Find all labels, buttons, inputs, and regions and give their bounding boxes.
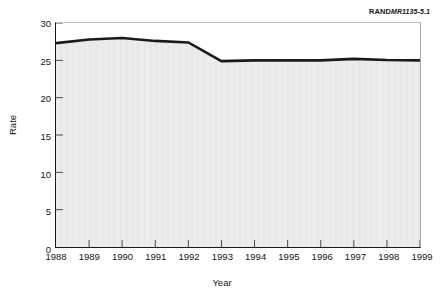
chart-svg xyxy=(56,23,420,247)
x-tick-label: 1993 xyxy=(212,251,233,262)
rand-brand-label: RAND xyxy=(369,7,391,16)
rand-document-credit: RANDMR1135-5.1 xyxy=(369,7,430,16)
y-tick-label: 10 xyxy=(40,168,51,179)
area-fill xyxy=(56,38,420,247)
x-axis-title: Year xyxy=(0,277,444,288)
y-tick-label: 25 xyxy=(40,55,51,66)
x-tick-label: 1999 xyxy=(411,251,432,262)
x-tick-label: 1996 xyxy=(312,251,333,262)
y-axis-title: Rate xyxy=(7,115,18,135)
y-tick-label: 30 xyxy=(40,18,51,29)
rand-document-number: MR1135-5.1 xyxy=(391,8,430,15)
y-tick-label: 15 xyxy=(40,131,51,142)
x-tick-label: 1992 xyxy=(179,251,200,262)
x-tick-label: 1990 xyxy=(112,251,133,262)
plot-area: 051015202530 198819891990199119921993199… xyxy=(55,22,421,248)
x-tick-label: 1989 xyxy=(79,251,100,262)
y-tick-label: 20 xyxy=(40,93,51,104)
x-tick-label: 1998 xyxy=(378,251,399,262)
y-tick-label: 5 xyxy=(46,206,51,217)
figure-area-chart: RANDMR1135-5.1 051015202530 198819891990… xyxy=(0,0,444,300)
x-tick-label: 1997 xyxy=(345,251,366,262)
x-tick-label: 1991 xyxy=(145,251,166,262)
x-tick-label: 1994 xyxy=(245,251,266,262)
x-tick-label: 1995 xyxy=(278,251,299,262)
x-tick-label: 1988 xyxy=(45,251,66,262)
